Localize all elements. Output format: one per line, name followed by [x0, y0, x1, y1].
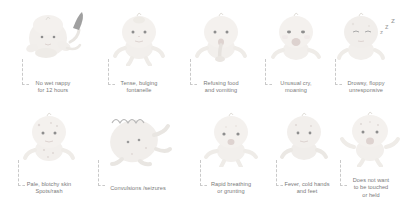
caption-line: Drowsy, floppy — [325, 80, 407, 87]
panel-caption: No wet nappy for 12 hours — [12, 80, 94, 95]
panel-caption: Refusing food and vomiting — [180, 80, 262, 95]
panel-drowsy-floppy[interactable]: z z z Drowsy, floppy unresponsive — [325, 4, 407, 109]
caption-line: Refusing food — [180, 80, 262, 87]
panel-pale-blotchy-skin[interactable]: Pale, blotchy skin Spots/rash — [8, 105, 90, 210]
sepsis-warning-signs-infographic: No wet nappy for 12 hours — [0, 0, 410, 211]
caption-line: Tense, bulging — [98, 80, 180, 87]
panel-convulsions[interactable]: Convulsions /seizures — [88, 105, 188, 210]
panel-caption: Does not want to be touched or held — [330, 177, 410, 199]
panel-no-wet-nappy[interactable]: No wet nappy for 12 hours — [12, 4, 94, 109]
svg-text:z: z — [385, 23, 389, 30]
panel-caption: Convulsions /seizures — [88, 185, 188, 192]
caption-line: Pale, blotchy skin — [8, 181, 90, 188]
baby-not-touched-icon — [330, 105, 410, 167]
caption-line: Does not want — [330, 177, 410, 184]
panel-caption: Rapid breathing or grunting — [190, 181, 272, 196]
caption-line: No wet nappy — [12, 80, 94, 87]
caption-line: unresponsive — [325, 87, 407, 94]
svg-text:z: z — [380, 29, 383, 35]
baby-with-nappy-icon — [12, 4, 94, 66]
panel-not-touched[interactable]: Does not want to be touched or held — [330, 105, 410, 210]
caption-line: or grunting — [190, 188, 272, 195]
baby-sleeping-zzz-icon: z z z — [325, 4, 407, 66]
panel-caption: Pale, blotchy skin Spots/rash — [8, 181, 90, 196]
caption-line: or held — [330, 192, 410, 199]
panel-caption: Drowsy, floppy unresponsive — [325, 80, 407, 95]
caption-line: Convulsions /seizures — [88, 185, 188, 192]
baby-vomiting-icon — [180, 4, 262, 66]
panel-tense-fontanelle[interactable]: Tense, bulging fontanelle — [98, 4, 180, 109]
panel-rapid-breathing[interactable]: Rapid breathing or grunting — [190, 105, 272, 210]
baby-blotchy-skin-icon — [8, 105, 90, 167]
baby-convulsions-icon — [88, 105, 188, 167]
svg-text:z: z — [391, 16, 395, 25]
caption-line: fontanelle — [98, 87, 180, 94]
baby-bulging-fontanelle-icon — [98, 4, 180, 66]
caption-line: for 12 hours — [12, 87, 94, 94]
connector-line — [98, 160, 100, 186]
caption-line: and vomiting — [180, 87, 262, 94]
panel-caption: Tense, bulging fontanelle — [98, 80, 180, 95]
caption-line: Rapid breathing — [190, 181, 272, 188]
caption-line: Spots/rash — [8, 188, 90, 195]
panel-refusing-food[interactable]: Refusing food and vomiting — [180, 4, 262, 109]
baby-rapid-breathing-icon — [190, 105, 272, 167]
caption-line: to be touched — [330, 184, 410, 191]
